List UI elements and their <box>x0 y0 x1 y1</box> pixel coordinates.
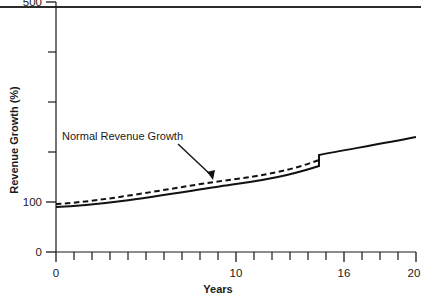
revenue-growth-chart: 500 100 0 0 10 16 20 Years Revenue Growt… <box>0 0 421 298</box>
chart-canvas: 500 100 0 0 10 16 20 Years Revenue Growt… <box>0 0 421 298</box>
y-tick-label-100: 100 <box>23 196 42 208</box>
annotation-arrowhead-icon <box>207 170 215 180</box>
y-axis-ticks <box>46 2 56 252</box>
annotation-normal-revenue-growth: Normal Revenue Growth <box>62 130 183 142</box>
x-tick-label-10: 10 <box>230 267 243 279</box>
y-tick-label-500: 500 <box>23 0 42 8</box>
y-tick-label-0: 0 <box>36 246 42 258</box>
series-normal-revenue-growth <box>56 160 319 204</box>
x-tick-label-20: 20 <box>408 267 421 279</box>
annotation-leader-line <box>178 144 212 176</box>
x-tick-label-16: 16 <box>338 267 351 279</box>
x-tick-label-0: 0 <box>53 267 59 279</box>
y-axis-title: Revenue Growth (%) <box>8 86 20 194</box>
x-axis-title: Years <box>203 283 232 295</box>
x-axis-ticks <box>56 252 416 262</box>
series-actual-revenue-growth <box>56 137 416 207</box>
